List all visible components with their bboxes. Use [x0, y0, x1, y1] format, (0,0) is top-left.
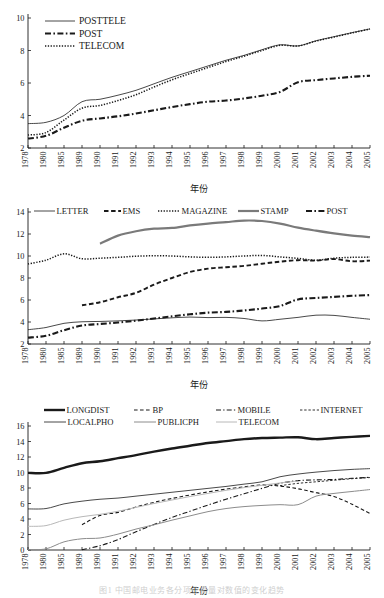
x-tick-label: 2004: [345, 348, 354, 364]
legend-label-stamp: STAMP: [261, 206, 289, 216]
x-tick-label: 1978: [21, 348, 30, 364]
x-tick-label: 1995: [183, 554, 192, 570]
legend-label-post: POST: [79, 28, 103, 39]
x-tick-label: 1998: [237, 152, 246, 168]
x-tick-label: 2003: [327, 348, 336, 364]
x-axis-title: 年份: [190, 183, 208, 194]
x-tick-label: 2002: [309, 348, 318, 364]
legend-label-mobile: MOBILE: [238, 405, 271, 415]
y-tick-label: 8: [20, 274, 24, 283]
y-tick-label: 16: [16, 422, 24, 431]
x-tick-label: 2003: [327, 152, 336, 168]
legend-label-longdist: LONGDIST: [67, 405, 111, 415]
x-tick-label: 1995: [183, 348, 192, 364]
y-tick-label: 10: [16, 252, 24, 261]
series-line-stamp: [100, 221, 370, 244]
series-line-telecom: [28, 481, 298, 526]
x-tick-label: 1985: [57, 348, 66, 364]
legend-label-magazine: MAGAZINE: [182, 206, 228, 216]
y-tick-label: 8: [20, 484, 24, 493]
y-tick-label: 14: [16, 438, 25, 447]
x-tick-label: 1999: [255, 348, 264, 364]
x-tick-label: 2001: [291, 152, 300, 168]
x-tick-label: 1980: [39, 348, 48, 364]
x-tick-label: 2001: [291, 348, 300, 364]
x-tick-label: 1978: [21, 554, 30, 570]
x-tick-label: 2003: [327, 554, 336, 570]
chart-panel-post-detail: 2468101214197819801985198919901991199219…: [0, 196, 384, 392]
y-tick-label: 4: [20, 112, 25, 121]
legend-label-bp: BP: [153, 405, 164, 415]
x-tick-label: 1990: [93, 348, 102, 364]
series-line-letter: [28, 315, 370, 330]
y-tick-label: 12: [16, 230, 24, 239]
y-tick-label: 6: [20, 296, 24, 305]
y-tick-label: 8: [20, 47, 24, 56]
figure-root: 2468101978198019851989199019911992199319…: [0, 0, 384, 598]
legend-label-letter: LETTER: [57, 206, 89, 216]
x-tick-label: 2005: [363, 348, 372, 364]
x-tick-label: 1998: [237, 348, 246, 364]
x-tick-label: 1993: [147, 152, 156, 168]
legend-label-ems: EMS: [123, 206, 141, 216]
x-tick-label: 1996: [201, 554, 210, 570]
chart-panel-posttele: 2468101978198019851989199019911992199319…: [0, 0, 384, 196]
y-tick-label: 2: [20, 531, 24, 540]
series-line-localpho: [28, 469, 370, 509]
y-tick-label: 4: [20, 515, 25, 524]
x-tick-label: 1990: [93, 554, 102, 570]
chart-svg-posttele: 2468101978198019851989199019911992199319…: [0, 0, 384, 196]
legend-label-publicph-2: PUBLICPH: [158, 417, 200, 427]
legend-label-internet: INTERNET: [321, 405, 364, 415]
x-tick-label: 2004: [345, 152, 354, 168]
series-line-post: [28, 76, 370, 139]
x-tick-label: 1985: [57, 152, 66, 168]
series-line-longdist: [28, 436, 370, 473]
x-tick-label: 1996: [201, 348, 210, 364]
chart-svg-telecom-detail: 0246810121416197819801985198919901991199…: [0, 392, 384, 598]
chart-panel-telecom-detail: 0246810121416197819801985198919901991199…: [0, 392, 384, 598]
x-tick-label: 2005: [363, 554, 372, 570]
x-tick-label: 1989: [75, 554, 84, 570]
series-line-publicph: [28, 490, 370, 550]
x-tick-label: 1995: [183, 152, 192, 168]
x-tick-label: 2005: [363, 152, 372, 168]
legend-label-post: POST: [327, 206, 349, 216]
series-line-post: [28, 295, 370, 338]
x-tick-label: 1999: [255, 554, 264, 570]
x-tick-label: 1997: [219, 152, 228, 168]
x-tick-label: 1989: [75, 152, 84, 168]
y-tick-label: 6: [20, 500, 24, 509]
x-tick-label: 2002: [309, 554, 318, 570]
x-tick-label: 1978: [21, 152, 30, 168]
legend-label-localpho-2: LOCALPHO: [68, 417, 114, 427]
x-tick-label: 1994: [165, 348, 174, 364]
x-tick-label: 2000: [273, 152, 282, 168]
x-tick-label: 1996: [201, 152, 210, 168]
legend-label-telecom: TELECOM: [79, 40, 125, 51]
y-tick-label: 10: [16, 469, 24, 478]
x-tick-label: 1980: [39, 554, 48, 570]
legend-label-telecom-2: TELECOM: [239, 417, 280, 427]
x-tick-label: 1994: [165, 152, 174, 168]
y-tick-label: 12: [16, 453, 24, 462]
y-tick-label: 10: [16, 14, 24, 23]
x-tick-label: 2000: [273, 554, 282, 570]
series-line-mobile: [82, 477, 370, 549]
x-tick-label: 1989: [75, 348, 84, 364]
y-tick-label: 6: [20, 79, 24, 88]
x-tick-label: 1991: [111, 152, 120, 168]
x-axis-title: 年份: [190, 379, 208, 390]
x-tick-label: 1999: [255, 152, 264, 168]
series-line-bp: [82, 485, 370, 525]
x-tick-label: 1985: [57, 554, 66, 570]
x-tick-label: 2000: [273, 348, 282, 364]
x-tick-label: 1998: [237, 554, 246, 570]
x-tick-label: 2002: [309, 152, 318, 168]
series-line-magazine: [28, 254, 370, 264]
x-tick-label: 1991: [111, 348, 120, 364]
chart-svg-post-detail: 2468101214197819801985198919901991199219…: [0, 196, 384, 392]
x-tick-label: 1994: [165, 554, 174, 570]
x-tick-label: 1980: [39, 152, 48, 168]
figure-caption: 图1 中国邮电业务各分项业务量对数值的变化趋势: [0, 586, 384, 596]
